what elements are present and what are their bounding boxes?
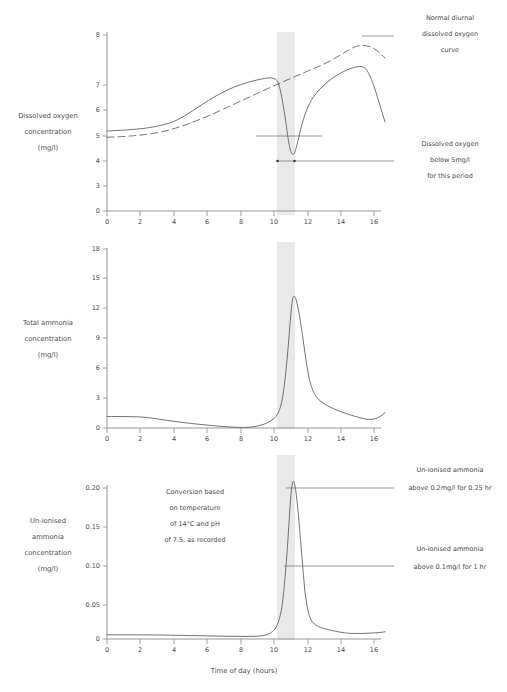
axis-title-line: concentration: [24, 128, 71, 136]
x-tick-label: 14: [337, 646, 345, 654]
annotation-line: Normal diurnal: [426, 14, 474, 22]
y-tick-label: 0: [96, 207, 100, 215]
annotation-line: curve: [441, 46, 459, 54]
axis-title-line: concentration: [24, 549, 71, 557]
y-tick-label: 15: [92, 274, 100, 282]
y-tick-labels: 0 3 4 5 6 7 8: [96, 31, 100, 215]
x-tick-label: 0: [105, 646, 109, 654]
x-tick-label: 4: [172, 435, 176, 443]
y-tick-labels: 0 0.05 0.10 0.15 0.20: [86, 484, 100, 643]
x-tick-marks: [107, 639, 374, 644]
annotation-line: Un-ionised ammonia: [416, 466, 483, 474]
annotation-line: Un-ionised ammonia: [416, 545, 483, 553]
total-ammonia-axis-title: Total ammonia concentration (mg/l): [22, 319, 73, 359]
y-tick-marks: [103, 488, 107, 639]
x-tick-label: 4: [172, 218, 176, 226]
normal-diurnal-oxygen-curve: [107, 45, 385, 137]
conversion-note: Conversion based on temperature of 14°C …: [164, 488, 225, 544]
y-tick-label: 9: [96, 334, 100, 342]
x-tick-label: 6: [205, 435, 209, 443]
x-tick-label: 6: [205, 218, 209, 226]
y-tick-label: 0.05: [86, 601, 100, 609]
x-tick-label: 10: [270, 218, 278, 226]
x-tick-label: 16: [370, 435, 378, 443]
y-tick-label: 6: [96, 106, 100, 114]
panel-dissolved-oxygen: 0 3 4 5 6 7 8 0 2: [18, 14, 478, 226]
x-tick-label: 8: [239, 218, 243, 226]
y-tick-label: 6: [96, 364, 100, 372]
x-tick-label: 14: [337, 435, 345, 443]
x-tick-label: 12: [304, 646, 312, 654]
y-tick-label: 4: [96, 157, 100, 165]
x-tick-labels: 0 2 4 6 8 10 12 14 16: [105, 435, 378, 443]
y-tick-marks: [103, 249, 107, 428]
axis-title-line: (mg/l): [38, 565, 59, 573]
conversion-note-line: on temperature: [169, 504, 220, 512]
y-tick-labels: 0 3 6 9 12 15 18: [92, 245, 100, 432]
x-tick-label: 2: [138, 435, 142, 443]
x-tick-marks: [107, 428, 374, 433]
annotation-line: Dissolved oxygen: [421, 140, 478, 148]
pollution-event-band: [277, 242, 295, 429]
x-tick-label: 2: [138, 646, 142, 654]
duration-marker-right-dot: [293, 160, 296, 163]
axis-title-line: (mg/l): [38, 351, 59, 359]
x-tick-label: 16: [370, 646, 378, 654]
x-tick-marks: [107, 211, 374, 216]
annotation-unionised-above-0p1: Un-ionised ammonia above 0.1mg/l for 1 h…: [414, 545, 487, 571]
x-axis-title: Time of day (hours): [210, 667, 278, 675]
y-tick-label: 12: [92, 304, 100, 312]
annotation-line: above 0.2mg/l for 0.25 hr: [408, 484, 492, 492]
annotation-line: dissolved oxygen: [422, 30, 478, 38]
y-tick-label: 0: [96, 635, 100, 643]
y-tick-label: 18: [92, 245, 100, 253]
x-tick-label: 12: [304, 435, 312, 443]
x-tick-label: 6: [205, 646, 209, 654]
y-tick-label: 8: [96, 31, 100, 39]
annotation-line: above 0.1mg/l for 1 hr: [414, 563, 487, 571]
total-ammonia-curve: [107, 296, 385, 427]
x-tick-label: 10: [270, 435, 278, 443]
figure-container: 0 3 4 5 6 7 8 0 2: [0, 0, 507, 692]
y-tick-label: 3: [96, 182, 100, 190]
observed-oxygen-curve: [107, 66, 385, 154]
annotation-oxygen-below-5mgl: Dissolved oxygen below 5mg/l for this pe…: [421, 140, 478, 180]
multi-panel-chart: 0 3 4 5 6 7 8 0 2: [0, 0, 507, 692]
x-tick-label: 16: [370, 218, 378, 226]
axis-title-line: Total ammonia: [22, 319, 73, 327]
x-tick-label: 10: [270, 646, 278, 654]
duration-marker-left-dot: [276, 160, 279, 163]
annotation-normal-diurnal-curve: Normal diurnal dissolved oxygen curve: [422, 14, 478, 54]
y-tick-marks: [103, 35, 107, 211]
x-tick-labels: 0 2 4 6 8 10 12 14 16: [105, 218, 378, 226]
annotation-unionised-above-0p2: Un-ionised ammonia above 0.2mg/l for 0.2…: [408, 466, 492, 492]
unionised-ammonia-axis-title: Un-ionised ammonia concentration (mg/l): [24, 517, 71, 573]
y-tick-label: 0.10: [86, 562, 100, 570]
y-tick-label: 0.15: [86, 523, 100, 531]
conversion-note-line: Conversion based: [166, 488, 224, 496]
x-tick-label: 0: [105, 218, 109, 226]
x-tick-label: 0: [105, 435, 109, 443]
axis-title-line: Dissolved oxygen: [18, 112, 78, 120]
axis-title-line: concentration: [24, 335, 71, 343]
x-tick-labels: 0 2 4 6 8 10 12 14 16: [105, 646, 378, 654]
x-tick-label: 8: [239, 435, 243, 443]
oxygen-axis-title: Dissolved oxygen concentration (mg/l): [18, 112, 78, 152]
x-tick-label: 12: [304, 218, 312, 226]
y-tick-label: 7: [96, 81, 100, 89]
annotation-line: for this period: [427, 172, 473, 180]
unionised-ammonia-curve: [107, 481, 385, 636]
axis-title-line: (mg/l): [38, 144, 59, 152]
x-tick-label: 2: [138, 218, 142, 226]
y-tick-label: 5: [96, 132, 100, 140]
x-tick-label: 14: [337, 218, 345, 226]
panel-unionised-ammonia: 0 0.05 0.10 0.15 0.20 0 2 4: [24, 455, 491, 675]
conversion-note-line: of 14°C and pH: [170, 520, 220, 528]
axis-title-line: Un-ionised: [30, 517, 66, 525]
conversion-note-line: of 7.5, as recorded: [164, 536, 225, 544]
axis-title-line: ammonia: [32, 533, 64, 541]
annotation-line: below 5mg/l: [430, 156, 470, 164]
x-tick-label: 8: [239, 646, 243, 654]
panel-total-ammonia: 0 3 6 9 12 15 18 0 2: [22, 242, 385, 443]
y-tick-label: 0.20: [86, 484, 100, 492]
